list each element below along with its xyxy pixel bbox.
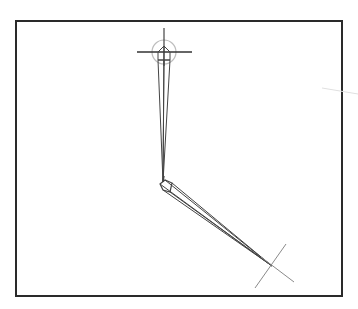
bone-edge-line (163, 190, 272, 266)
bone-upper-leg[interactable] (158, 46, 170, 182)
bone-edge-line (163, 176, 164, 182)
guide-line (322, 88, 358, 94)
ik-target-handle-bottom[interactable] (255, 244, 294, 288)
3d-viewport[interactable] (0, 0, 358, 309)
crosshair-x-icon-line-b (261, 257, 294, 282)
viewport-canvas[interactable] (0, 0, 358, 309)
bone-edge-line (158, 60, 163, 182)
crosshair-x-icon-line-a (255, 244, 286, 288)
bone-lower-leg[interactable] (160, 176, 272, 266)
bone-edge-line (172, 183, 272, 266)
camera-frame-border (16, 21, 342, 296)
bone-joint-shape (160, 180, 172, 192)
